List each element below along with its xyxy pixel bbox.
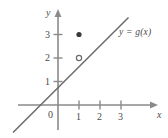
x-tick-label-3: 3 <box>118 112 123 122</box>
y-axis-arrow <box>55 9 62 17</box>
x-tick-label-1: 1 <box>76 112 81 122</box>
function-line <box>13 18 129 133</box>
y-tick-label-1: 1 <box>45 77 50 87</box>
filled-point-marker <box>76 32 81 37</box>
y-axis-label: y <box>46 8 50 18</box>
x-tick-label-2: 2 <box>97 112 102 122</box>
origin-label: 0 <box>48 110 53 120</box>
curve-label: y = g(x) <box>119 28 151 38</box>
y-axis <box>55 9 62 130</box>
y-tick-label-3: 3 <box>45 30 50 40</box>
x-axis-label: x <box>157 110 161 120</box>
y-tick-label-2: 2 <box>45 53 50 63</box>
plot-area <box>0 0 168 138</box>
graph-figure: 3 2 1 1 2 3 0 y x y = g(x) <box>0 0 168 138</box>
x-axis-arrow <box>150 102 158 109</box>
open-point-marker <box>76 55 81 60</box>
